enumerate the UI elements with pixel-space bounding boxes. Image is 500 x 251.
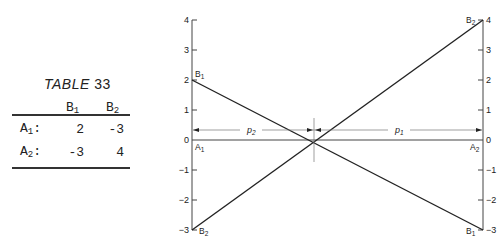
svg-text:−3: −3 [486,225,496,235]
line-b1 [192,80,483,230]
svg-text:0: 0 [486,135,491,145]
line-b2 [192,20,483,230]
label-a2: A2 [470,142,480,153]
svg-text:4: 4 [184,15,189,25]
label-a1: A1 [195,142,205,153]
arrowhead-p1-start-icon [315,128,321,132]
svg-text:2: 2 [184,75,189,85]
svg-text:4: 4 [486,15,491,25]
svg-text:0: 0 [184,135,189,145]
arrowhead-right-icon [476,128,482,132]
svg-text:1: 1 [184,105,189,115]
svg-text:−1: −1 [179,165,189,175]
right-axis-tick-labels: 4 3 2 1 0 −1 −2 −3 [486,15,496,235]
label-left-b1: B1 [195,69,205,80]
left-axis-ticks [192,20,197,230]
arrowhead-left-icon [193,128,199,132]
svg-text:−2: −2 [179,195,189,205]
mixed-strategy-diagram: 4 3 2 1 0 −1 −2 −3 4 3 2 1 0 −1 −2 −3 p2 [0,0,500,251]
svg-text:−3: −3 [179,225,189,235]
svg-text:3: 3 [486,45,491,55]
svg-text:−2: −2 [486,195,496,205]
label-right-b2: B2 [466,15,476,26]
label-right-b1: B1 [466,226,476,237]
svg-text:1: 1 [486,105,491,115]
label-left-b2: B2 [199,226,209,237]
svg-text:2: 2 [486,75,491,85]
svg-text:3: 3 [184,45,189,55]
left-axis-tick-labels: 4 3 2 1 0 −1 −2 −3 [179,15,189,235]
right-axis-ticks [478,20,483,230]
svg-text:−1: −1 [486,165,496,175]
arrowhead-p2-end-icon [307,128,313,132]
